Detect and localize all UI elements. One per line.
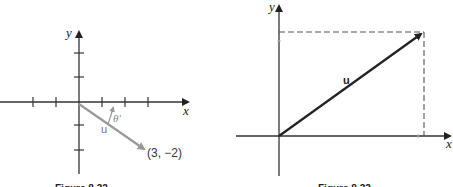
- y-axis-label: y: [267, 0, 275, 14]
- y-axis-label: y: [64, 25, 72, 40]
- point-label: (3, −2): [147, 146, 182, 160]
- figure-caption: Figure 8.32: [55, 183, 108, 187]
- figures-canvas: y x θ′ u (3, −2) Figure 8.32 y x u Figur…: [0, 0, 453, 187]
- figure-8-33: y x u Figure 8.33: [236, 0, 452, 187]
- vector-u: [279, 34, 421, 136]
- figure-8-32: y x θ′ u (3, −2) Figure 8.32: [0, 25, 189, 187]
- figure-caption: Figure 8.33: [318, 183, 371, 187]
- vector-u: [79, 104, 144, 149]
- angle-label: θ′: [113, 112, 121, 124]
- x-axis-label: x: [445, 136, 452, 151]
- vector-label: u: [343, 74, 350, 86]
- x-axis-label: x: [182, 103, 189, 118]
- vector-label: u: [101, 123, 107, 135]
